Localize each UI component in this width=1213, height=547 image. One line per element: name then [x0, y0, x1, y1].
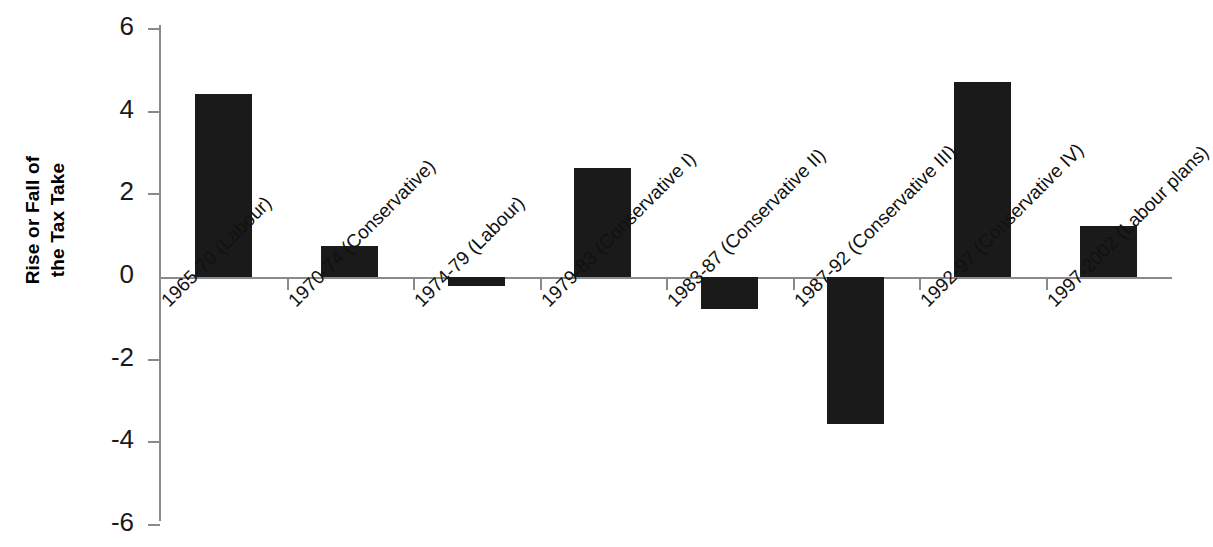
- y-tick-label: 6: [88, 11, 134, 42]
- y-tick-label: 0: [88, 259, 134, 290]
- bar: [827, 277, 884, 424]
- y-axis-title-line-1: Rise or Fall of: [20, 130, 45, 310]
- y-tick-mark: [148, 524, 160, 526]
- y-axis-line: [159, 25, 161, 521]
- y-tick-label: 4: [88, 94, 134, 125]
- y-tick-label: 2: [88, 176, 134, 207]
- x-tick-mark: [666, 279, 668, 290]
- y-axis-title-line-2: the Tax Take: [45, 130, 70, 310]
- x-tick-mark: [1046, 279, 1048, 290]
- y-tick-label: -4: [88, 424, 134, 455]
- y-tick-mark: [148, 111, 160, 113]
- y-tick-mark: [148, 359, 160, 361]
- y-tick-mark: [148, 28, 160, 30]
- y-tick-label: -6: [88, 507, 134, 538]
- x-tick-mark: [540, 279, 542, 290]
- x-tick-mark: [413, 279, 415, 290]
- y-tick-mark: [148, 193, 160, 195]
- x-tick-mark: [793, 279, 795, 290]
- y-tick-label: -2: [88, 342, 134, 373]
- x-tick-mark: [919, 279, 921, 290]
- x-tick-mark: [287, 279, 289, 290]
- y-tick-mark: [148, 441, 160, 443]
- bar: [701, 277, 758, 309]
- x-category-label: 1974-79 (Labour): [410, 192, 529, 311]
- y-axis-title: Rise or Fall of the Tax Take: [20, 130, 80, 310]
